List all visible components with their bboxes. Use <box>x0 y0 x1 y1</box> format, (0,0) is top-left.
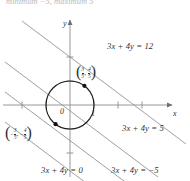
tangent-point-min-marker <box>54 122 58 126</box>
paren-close: ) <box>91 63 96 80</box>
tangent-point-min-label: ( − 3 5 , − 4 5 ) <box>5 128 32 141</box>
tangent-point-max-label: ( 3 5 , 4 5 ) <box>76 67 96 80</box>
paren-close: ) <box>26 124 31 141</box>
line-label-3x-4y-eq-12: 3x + 4y = 12 <box>107 42 153 51</box>
origin-label: 0 <box>60 108 64 116</box>
y-axis-label: y <box>63 20 67 28</box>
line-family <box>5 21 186 181</box>
x-axis-label: x <box>173 110 177 118</box>
line-label-3x-4y-eq-neg5: 3x + 4y = 0 <box>41 166 83 175</box>
paren-open: ( <box>5 124 10 141</box>
x-unit-tick-label: 1 <box>91 110 95 118</box>
line-label-3x-4y-eq-5: 3x + 4y = 5 <box>122 124 164 133</box>
coordinate-plane-figure <box>0 0 190 181</box>
line-label-3x-4y-eq-0: 3x + 4y = −5 <box>111 166 159 175</box>
tangent-point-max-marker <box>82 84 86 88</box>
paren-open: ( <box>76 63 81 80</box>
